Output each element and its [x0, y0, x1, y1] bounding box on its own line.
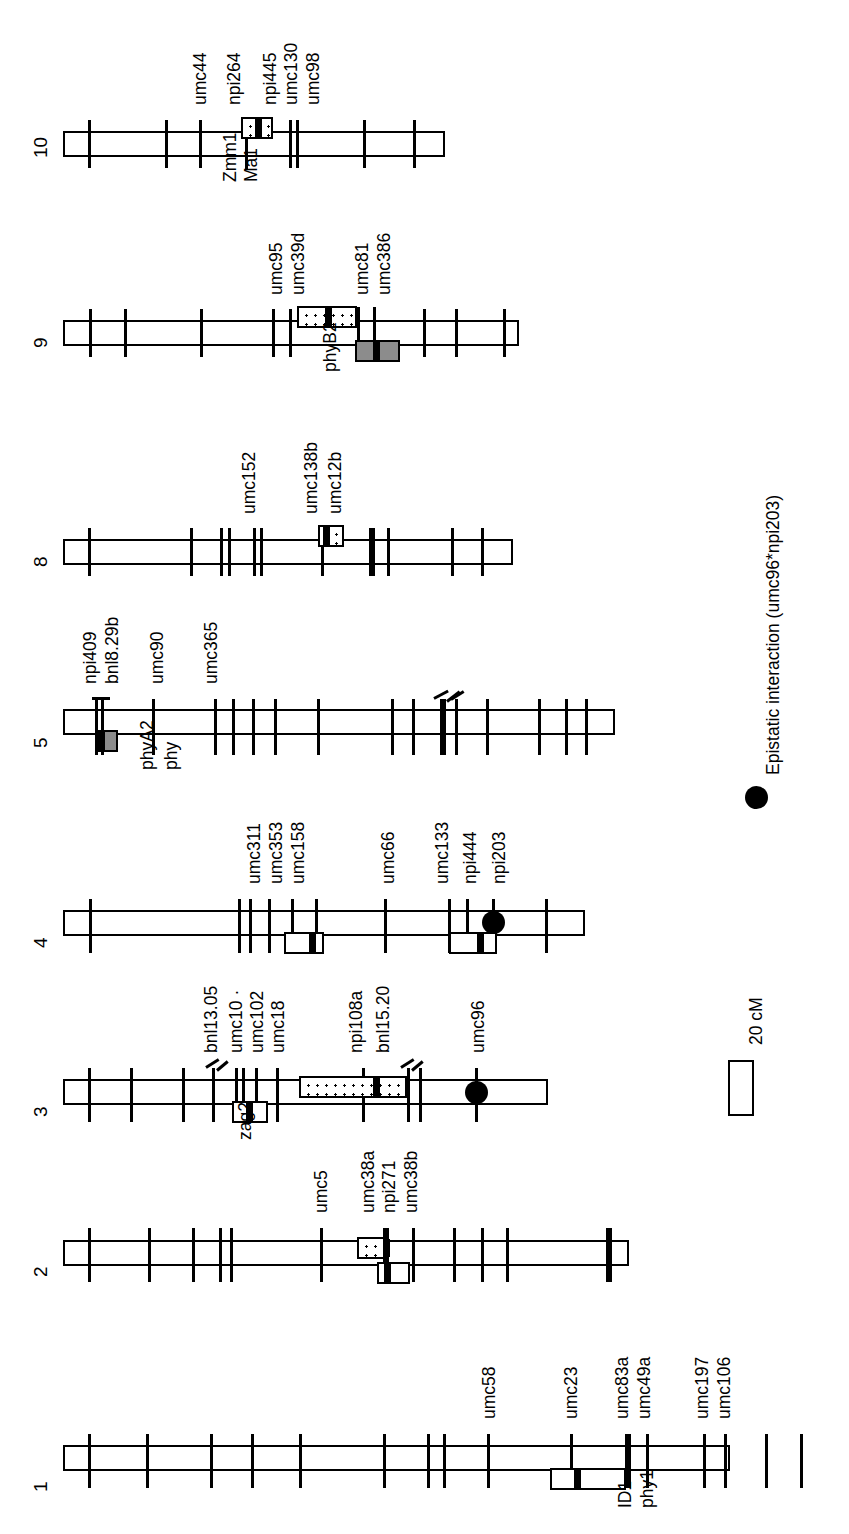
marker-tick-umc66	[384, 899, 387, 953]
marker-fork-top	[92, 697, 110, 700]
qtl-interval-grey	[96, 730, 118, 752]
chromosome-8-bar	[63, 539, 513, 565]
marker-tick	[200, 309, 203, 357]
marker-tick-umc58	[487, 1434, 490, 1488]
marker-label-umc311: umc311	[246, 823, 264, 884]
chromosome-number-5: 5	[30, 737, 52, 748]
marker-label-umc83a: umc83a	[614, 1357, 632, 1419]
chromosome-number-3: 3	[30, 1106, 52, 1117]
marker-tick	[252, 699, 255, 755]
marker-tick	[276, 1068, 279, 1122]
marker-label-zag2: zag2	[237, 1102, 255, 1140]
marker-tick	[249, 899, 252, 953]
marker-tick	[387, 528, 390, 576]
marker-tick-umc39d	[289, 309, 292, 357]
marker-tick	[565, 699, 568, 755]
marker-tick-umc106	[724, 1434, 727, 1488]
marker-tick	[412, 699, 415, 755]
linkage-map-figure: 10 umc44 npi264 npi445 umc130 umc98 Zmm1…	[0, 0, 849, 1534]
chromosome-number-1: 1	[30, 1481, 52, 1492]
marker-label-umc66: umc66	[380, 831, 398, 884]
qtl-interval-dotted	[357, 1237, 389, 1259]
marker-label-bnl8.29b: bnl8.29b	[104, 617, 122, 684]
marker-tick	[260, 528, 263, 576]
marker-tick-umc38b	[412, 1228, 415, 1282]
marker-tick	[423, 309, 426, 357]
marker-tick	[251, 1434, 254, 1488]
marker-label-umc23: umc23	[563, 1366, 581, 1419]
marker-tick	[455, 309, 458, 357]
marker-label-npi203: npi203	[491, 831, 509, 884]
chromosome-4-bar	[63, 910, 585, 936]
marker-label-ID1: ID1	[617, 1481, 635, 1508]
marker-tick-umc311	[238, 899, 241, 953]
qtl-interval-dotted	[318, 525, 344, 547]
qtl-interval-white	[284, 932, 324, 954]
marker-label-umc18: umc18	[270, 1000, 288, 1053]
marker-tick	[232, 699, 235, 755]
marker-tick	[89, 309, 92, 357]
marker-label-umc95: umc95	[268, 242, 286, 295]
marker-label-umc197: umc197	[694, 1357, 712, 1419]
marker-tick	[296, 120, 299, 168]
marker-label-phy1: phy1	[639, 1470, 657, 1508]
marker-label-umc58: umc58	[481, 1366, 499, 1419]
marker-tick-umc5	[320, 1228, 323, 1282]
marker-tick	[443, 1434, 446, 1488]
marker-label-umc386: umc386	[376, 233, 394, 295]
marker-tick	[606, 1228, 612, 1282]
marker-tick	[545, 899, 548, 953]
qtl-peak-marker	[384, 1264, 391, 1282]
marker-label-Ma1: Ma1	[243, 148, 261, 182]
marker-tick	[228, 528, 231, 576]
marker-label-npi409: npi409	[82, 631, 100, 684]
marker-tick-phyA2	[440, 699, 446, 755]
marker-tick-umc353	[268, 899, 271, 953]
marker-label-bnl13.05: bnl13.05	[203, 986, 221, 1053]
marker-tick-umc197	[703, 1434, 706, 1488]
marker-tick	[88, 120, 91, 168]
marker-tick	[419, 1068, 422, 1122]
marker-tick-umc365	[214, 699, 217, 755]
marker-tick-bnl15.20	[407, 1068, 410, 1122]
marker-label-umc44: umc44	[192, 52, 210, 105]
marker-tick	[88, 1434, 91, 1488]
marker-label-umc158: umc158	[290, 822, 308, 884]
chromosome-number-9: 9	[30, 337, 52, 348]
qtl-interval-grey	[355, 340, 400, 362]
marker-label-umc81: umc81	[354, 242, 372, 295]
marker-tick	[585, 699, 588, 755]
epistatic-interaction-dot	[465, 1081, 488, 1104]
marker-label-phyB2: phyB2	[322, 322, 340, 372]
marker-label-npi108a: npi108a	[348, 991, 366, 1053]
marker-tick	[210, 1434, 213, 1488]
marker-label-umc138b: umc138b	[303, 442, 321, 514]
chromosome-number-2: 2	[30, 1266, 52, 1277]
marker-label-bnl15.20: bnl15.20	[375, 986, 393, 1053]
qtl-peak-marker	[477, 934, 484, 952]
marker-label-npi264: npi264	[226, 52, 244, 105]
qtl-peak-marker	[309, 934, 316, 952]
marker-label-umc353: umc353	[268, 822, 286, 884]
marker-label-phyA2: phyA2	[139, 720, 157, 770]
marker-label-umc39d: umc39d	[290, 233, 308, 295]
qtl-peak-marker	[373, 1078, 380, 1096]
qtl-peak-marker	[574, 1470, 581, 1488]
marker-tick	[363, 120, 366, 168]
marker-fork-arm	[216, 1060, 229, 1071]
marker-label-Zmm1: Zmm1	[222, 132, 240, 182]
marker-tick	[481, 1228, 484, 1282]
marker-label-umc10: umc10 ·	[228, 990, 246, 1053]
epistatic-interaction-dot	[482, 911, 505, 934]
marker-label-umc38b: umc38b	[403, 1151, 421, 1213]
marker-tick	[148, 1228, 151, 1282]
marker-label-umc12b: umc12b	[327, 452, 345, 514]
marker-tick-umc95	[272, 309, 275, 357]
marker-tick	[765, 1434, 768, 1488]
marker-label-umc38a: umc38a	[360, 1151, 378, 1213]
legend-epistasis-dot-icon	[745, 786, 768, 809]
marker-tick	[274, 699, 277, 755]
marker-label-umc365: umc365	[203, 622, 221, 684]
marker-label-umc90: umc90	[149, 631, 167, 684]
marker-tick	[199, 120, 202, 168]
